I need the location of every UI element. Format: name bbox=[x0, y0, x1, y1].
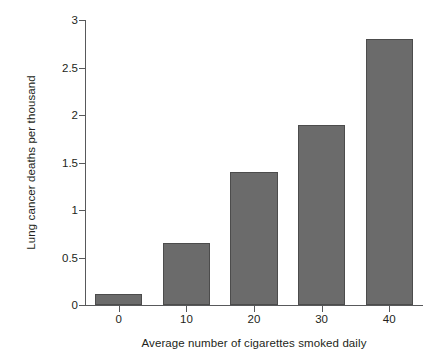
y-axis-title: Lung cancer deaths per thousand bbox=[22, 20, 40, 305]
bar bbox=[298, 125, 345, 306]
x-axis-tick-mark bbox=[119, 306, 120, 312]
bar bbox=[163, 243, 210, 305]
x-axis-tick-mark bbox=[389, 306, 390, 312]
y-axis-tick-label: 2.5 bbox=[44, 62, 78, 74]
bar bbox=[366, 39, 413, 305]
x-axis-tick-mark bbox=[254, 306, 255, 312]
x-axis-tick-mark bbox=[186, 306, 187, 312]
y-axis-tick-label: 1.5 bbox=[44, 157, 78, 169]
x-axis-tick-mark bbox=[322, 306, 323, 312]
x-axis-tick-label: 30 bbox=[315, 313, 328, 325]
y-axis-tick-label: 3 bbox=[44, 14, 78, 26]
x-axis-title: Average number of cigarettes smoked dail… bbox=[85, 337, 423, 349]
x-axis-tick-label: 0 bbox=[116, 313, 122, 325]
y-axis-tick-label: 0 bbox=[44, 299, 78, 311]
y-axis-tick-label: 2 bbox=[44, 109, 78, 121]
y-axis-tick-labels: 00.511.522.53 bbox=[44, 0, 78, 359]
y-axis-tick-label: 0.5 bbox=[44, 252, 78, 264]
y-axis-tick-label: 1 bbox=[44, 204, 78, 216]
bar bbox=[95, 294, 142, 305]
x-axis-tick-label: 20 bbox=[248, 313, 261, 325]
plot-area bbox=[85, 20, 423, 305]
bar-chart-figure: Lung cancer deaths per thousand 00.511.5… bbox=[0, 0, 438, 359]
bar bbox=[230, 172, 277, 305]
x-axis-tick-label: 40 bbox=[383, 313, 396, 325]
x-axis-tick-label: 10 bbox=[180, 313, 193, 325]
